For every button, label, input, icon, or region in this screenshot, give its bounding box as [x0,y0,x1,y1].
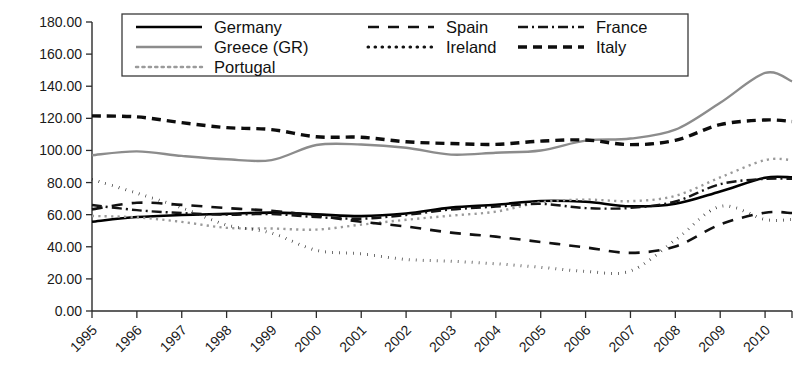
x-tick-label: 2010 [740,322,773,355]
legend-label-ireland: Ireland [446,38,496,56]
x-tick-label: 1995 [67,322,100,355]
y-tick-label: 140.00 [39,78,82,94]
x-tick-label: 1998 [201,322,234,355]
line-chart: 0.0020.0040.0060.0080.00100.00120.00140.… [0,0,806,371]
legend-label-italy: Italy [596,38,627,56]
legend-label-spain: Spain [446,18,488,36]
x-tick-label: 1996 [112,322,145,355]
y-tick-label: 0.00 [55,303,82,319]
y-tick-label: 20.00 [47,271,82,287]
legend-label-germany: Germany [214,18,283,36]
series-line-greece-gr [92,72,792,161]
y-tick-label: 100.00 [39,142,82,158]
x-tick-label: 2000 [291,322,324,355]
series-line-france [92,178,792,218]
chart-canvas: 0.0020.0040.0060.0080.00100.00120.00140.… [0,0,806,371]
legend-label-greece-gr: Greece (GR) [214,38,308,56]
x-tick-label: 2008 [650,322,683,355]
series-layer [92,72,792,273]
y-tick-label: 160.00 [39,46,82,62]
x-tick-label: 2009 [695,322,728,355]
x-tick-label: 1999 [246,322,279,355]
series-line-italy [92,116,792,145]
series-line-portugal [92,159,792,230]
y-tick-label: 60.00 [47,207,82,223]
x-tick-label: 2003 [426,322,459,355]
y-axis: 0.0020.0040.0060.0080.00100.00120.00140.… [39,14,92,319]
x-tick-label: 2001 [336,322,369,355]
chart-legend: GermanyGreece (GR)PortugalSpainIrelandFr… [122,14,688,76]
y-tick-label: 120.00 [39,110,82,126]
x-tick-label: 2007 [605,322,638,355]
series-line-spain [92,203,792,253]
series-line-ireland [92,179,792,273]
x-tick-label: 1997 [157,322,190,355]
y-tick-label: 80.00 [47,175,82,191]
x-tick-label: 2006 [560,322,593,355]
x-tick-label: 2004 [471,322,504,355]
legend-label-portugal: Portugal [214,58,275,76]
x-tick-label: 2005 [515,322,548,355]
legend-label-france: France [596,18,647,36]
y-tick-label: 180.00 [39,14,82,30]
x-tick-label: 2002 [381,322,414,355]
y-tick-label: 40.00 [47,239,82,255]
x-axis: 1995199619971998199920002001200220032004… [67,311,792,355]
